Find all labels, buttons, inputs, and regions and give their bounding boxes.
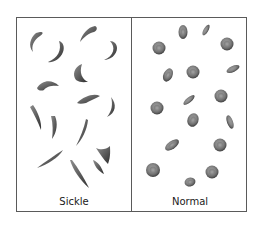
normal-cells-group [146,24,241,188]
sickle-cell [70,160,89,188]
sickle-cell [77,95,100,104]
sickle-cell [93,160,104,174]
normal-cell [182,94,196,107]
normal-cell [187,66,200,79]
normal-cell [214,139,227,152]
normal-cell [146,163,160,177]
sickle-cell [37,81,59,90]
sickle-cell [104,41,117,60]
sickle-cells-group [30,26,117,188]
normal-cell [161,67,175,83]
normal-cell [225,63,240,74]
normal-cell [201,24,211,37]
normal-cell [221,38,234,51]
normal-cell [184,176,197,188]
normal-cell [215,90,228,103]
sickle-cell [30,32,42,52]
normal-panel-label: Normal [160,196,220,207]
sickle-cell [30,105,41,130]
sickle-cell [80,26,97,42]
normal-cell [179,25,188,39]
sickle-cell [107,97,115,117]
normal-cell [206,166,219,179]
normal-cell [185,112,200,129]
normal-cell [151,102,164,115]
cells-illustration [0,0,256,227]
sickle-panel-label: Sickle [44,196,104,207]
sickle-cell [96,146,110,164]
normal-cell [153,42,166,55]
sickle-cell [76,119,88,146]
sickle-cell [74,64,88,82]
normal-cell [163,137,181,153]
sickle-cell [37,150,63,168]
normal-cell [225,114,235,129]
sickle-cell [48,41,64,62]
sickle-cell [51,116,57,139]
